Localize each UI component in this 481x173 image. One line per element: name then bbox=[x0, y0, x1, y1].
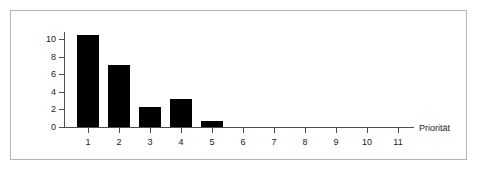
x-axis-tick-label: 7 bbox=[262, 137, 286, 147]
bar-2 bbox=[108, 65, 130, 127]
y-axis-tick-label: 6 bbox=[30, 69, 56, 79]
x-axis-tick-label: 5 bbox=[200, 137, 224, 147]
x-axis-tick-label: 8 bbox=[293, 137, 317, 147]
bar-1 bbox=[77, 35, 99, 127]
x-axis-tick-label: 11 bbox=[386, 137, 410, 147]
x-axis-tick-label: 3 bbox=[138, 137, 162, 147]
chart-plot-area bbox=[0, 0, 481, 173]
x-axis-tick-label: 9 bbox=[324, 137, 348, 147]
x-axis-tick-label: 6 bbox=[231, 137, 255, 147]
y-axis-tick-label: 2 bbox=[30, 104, 56, 114]
bar-3 bbox=[139, 107, 161, 127]
bar-4 bbox=[170, 99, 192, 127]
x-axis-tick-label: 2 bbox=[107, 137, 131, 147]
y-axis-tick-label: 4 bbox=[30, 87, 56, 97]
y-axis-tick-label: 0 bbox=[30, 122, 56, 132]
chart-figure: 0246810 1234567891011 Priorität bbox=[0, 0, 481, 173]
y-axis-tick-label: 10 bbox=[30, 34, 56, 44]
x-axis-tick-label: 4 bbox=[169, 137, 193, 147]
bar-5 bbox=[201, 121, 223, 127]
x-axis-tick-label: 1 bbox=[76, 137, 100, 147]
x-axis-title: Priorität bbox=[419, 123, 450, 133]
y-axis-tick-label: 8 bbox=[30, 52, 56, 62]
x-axis-tick-label: 10 bbox=[355, 137, 379, 147]
